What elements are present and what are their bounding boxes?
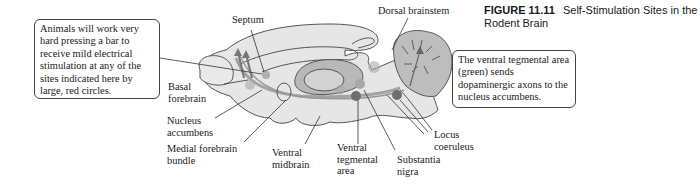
stim-site-ventral-midbrain: [335, 85, 345, 95]
stim-site-basal-forebrain: [245, 80, 255, 90]
label-ventral-midbrain: Ventral midbrain: [272, 147, 310, 170]
label-nucleus-accumbens: Nucleus accumbens: [167, 115, 213, 138]
vta-callout: The ventral tegmental area (green) sends…: [452, 50, 576, 108]
label-ventral-tegmental-area: Ventral tegmental area: [337, 142, 378, 177]
label-substantia-nigra: Substantia nigra: [397, 154, 440, 177]
stim-site-locus-coeruleus: [392, 90, 402, 100]
label-dorsal-brainstem: Dorsal brainstem: [378, 5, 449, 17]
stim-site-septum: [262, 71, 270, 79]
stimulation-callout: Animals will work very hard pressing a b…: [34, 19, 160, 99]
label-medial-forebrain-bundle: Medial forebrain bundle: [167, 143, 237, 166]
stim-site-substantia-nigra: [351, 91, 361, 101]
stim-site-dorsal-brainstem: [368, 61, 380, 73]
label-locus-coeruleus: Locus coeruleus: [434, 129, 474, 152]
label-basal-forebrain: Basal forebrain: [168, 81, 206, 104]
figure-number: FIGURE 11.11: [484, 4, 555, 16]
vta-site: [355, 79, 365, 89]
figure-caption: FIGURE 11.11Self-Stimulation Sites in th…: [484, 4, 699, 30]
label-septum: Septum: [232, 14, 264, 26]
